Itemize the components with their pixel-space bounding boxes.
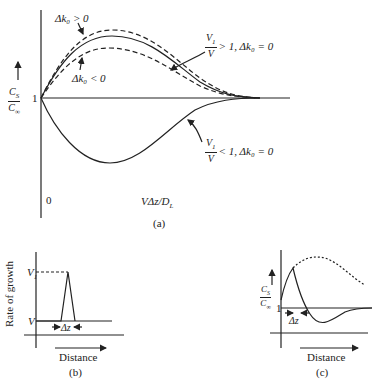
- b-y-axis-label: Rate of growth: [4, 261, 15, 327]
- c-dz-label: Δz: [289, 316, 299, 326]
- b-x-axis-label: Distance: [59, 352, 97, 363]
- annotation-dk-positive: Δk₀ > 0: [55, 13, 89, 24]
- annotation-v1-gt: V1V > 1, Δk₀ = 0: [205, 33, 273, 59]
- c-y-axis-label: CS C∞: [260, 285, 271, 310]
- annotation-dk-negative: Δk₀ < 0: [72, 73, 106, 84]
- b-dz-label: Δz: [61, 323, 71, 333]
- b-caption: (b): [69, 367, 82, 378]
- a-y-axis-label: CS C∞: [8, 87, 20, 116]
- c-caption: (c): [316, 367, 328, 378]
- a-caption: (a): [153, 218, 165, 229]
- c-x-axis-label: Distance: [307, 352, 345, 363]
- annotation-v1-lt: V1V < 1, Δk₀ = 0: [205, 138, 273, 164]
- a-x-axis-label: VΔz/DL: [141, 196, 173, 210]
- a-origin: 0: [46, 195, 52, 206]
- a-y-tick-1: 1: [32, 93, 38, 104]
- b-v1-label: V1: [27, 267, 37, 281]
- b-v-label: V: [28, 316, 35, 327]
- c-y-tick-1: 1: [276, 303, 282, 314]
- diagram-canvas: [0, 0, 383, 385]
